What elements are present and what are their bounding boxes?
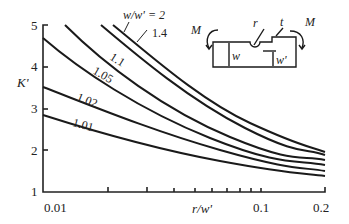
y-tick-5: 5 — [31, 18, 38, 33]
x-axis-title: r/w' — [192, 201, 212, 216]
label-w-ratio-2: w/w' = 2 — [123, 8, 165, 22]
y-axis-title: K' — [16, 75, 29, 90]
y-tick-4: 4 — [31, 59, 38, 74]
y-tick-2: 2 — [31, 143, 38, 158]
y-tick-3: 3 — [31, 101, 38, 116]
x-tick-0.2: 0.2 — [313, 200, 329, 215]
label-1.01: 1.01 — [71, 115, 95, 134]
x-tick-0.1: 0.1 — [253, 200, 269, 215]
diagram-width-w-prime: w' — [276, 53, 287, 67]
curve-w-ratio-1.1 — [65, 25, 325, 160]
notched-bar-diagram — [206, 28, 305, 67]
label-1.4: 1.4 — [152, 26, 167, 40]
chart-canvas: 1 2 3 4 5 0.01 0.1 0.2 K' r/w' w/w' = 2 … — [0, 0, 349, 224]
diagram-moment-right: M — [304, 15, 316, 29]
diagram-moment-left: M — [190, 23, 202, 37]
axes — [43, 25, 325, 192]
leader-line — [124, 22, 129, 32]
x-tick-0.01: 0.01 — [44, 200, 67, 215]
diagram-width-w: w — [232, 49, 240, 63]
y-tick-1: 1 — [31, 184, 38, 199]
leader-line — [137, 30, 147, 42]
diagram-step-t: t — [280, 15, 284, 29]
diagram-radius-r: r — [253, 16, 258, 30]
